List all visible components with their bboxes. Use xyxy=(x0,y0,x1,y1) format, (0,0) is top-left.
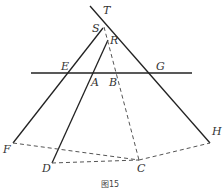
label-A: A xyxy=(90,76,99,89)
line-TH xyxy=(90,6,210,143)
label-G: G xyxy=(156,60,165,73)
dashed-line-CH xyxy=(139,143,210,160)
label-C: C xyxy=(137,162,146,175)
label-E: E xyxy=(60,60,69,73)
line-SF xyxy=(13,28,103,143)
label-D: D xyxy=(41,162,51,175)
line-RD xyxy=(52,40,108,163)
label-T: T xyxy=(103,4,112,17)
label-F: F xyxy=(2,143,11,156)
dashed-line-FC xyxy=(13,143,139,160)
geometry-diagram: T S R E A B G F D C H 图15 xyxy=(0,0,223,191)
label-R: R xyxy=(109,34,118,47)
label-H: H xyxy=(211,125,222,138)
label-S: S xyxy=(92,22,100,35)
label-B: B xyxy=(108,76,117,89)
dashed-line-DC xyxy=(52,160,139,163)
figure-caption: 图15 xyxy=(101,180,119,189)
